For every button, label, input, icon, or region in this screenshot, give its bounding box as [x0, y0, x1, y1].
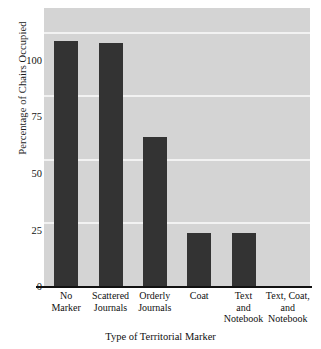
x-tick-label-line: Text, Coat, — [258, 290, 318, 302]
y-tick-label-75: 75 — [16, 112, 42, 123]
gridline-75 — [44, 95, 310, 97]
bar — [187, 233, 211, 286]
x-tick-label-line: Notebook — [258, 313, 318, 325]
x-tick-label-line: and — [258, 302, 318, 314]
gridline-25 — [44, 222, 310, 224]
gridline-50 — [44, 159, 310, 161]
chart-figure: Percentage of Chairs Occupied 100 75 50 … — [0, 0, 321, 349]
bar — [143, 137, 167, 286]
plot-area — [44, 8, 310, 286]
x-axis-line — [36, 286, 312, 288]
x-axis-title: Type of Territorial Marker — [0, 331, 321, 342]
bar — [99, 43, 123, 286]
bar — [54, 41, 78, 286]
gridline-100 — [44, 32, 310, 34]
x-tick-label-line: Journals — [125, 302, 185, 314]
y-tick-label-25: 25 — [16, 226, 42, 237]
y-tick-label-50: 50 — [16, 169, 42, 180]
x-tick-label: Text, Coat,andNotebook — [258, 290, 318, 325]
x-axis-tick-labels: NoMarkerScatteredJournalsOrderlyJournals… — [44, 290, 310, 330]
y-tick-label-100: 100 — [16, 56, 42, 67]
bar — [232, 233, 256, 286]
